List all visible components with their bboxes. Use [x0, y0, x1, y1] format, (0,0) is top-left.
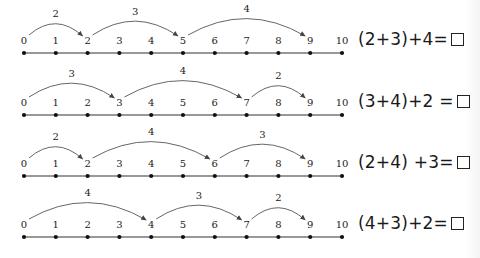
tick-dot — [149, 235, 153, 239]
tick-dot — [245, 174, 249, 178]
answer-box[interactable] — [451, 33, 464, 46]
jump-arc-arrow — [188, 19, 305, 36]
tick-label: 2 — [84, 97, 90, 108]
number-line: 012345678910234 — [21, 3, 349, 55]
tick-label: 4 — [148, 35, 154, 46]
tick-dot — [308, 51, 312, 55]
tick-label: 7 — [243, 219, 249, 230]
tick-dot — [181, 51, 185, 55]
tick-label: 9 — [307, 35, 313, 46]
tick-dot — [276, 174, 280, 178]
tick-label: 9 — [307, 158, 313, 169]
tick-dot — [86, 174, 90, 178]
tick-dot — [22, 235, 26, 239]
tick-label: 2 — [84, 158, 90, 169]
jump-arc-arrow — [29, 83, 114, 98]
tick-label: 4 — [148, 158, 154, 169]
jump-label: 3 — [69, 68, 75, 79]
tick-label: 0 — [21, 97, 27, 108]
equation: (4+3)+2= — [358, 213, 464, 233]
tick-label: 5 — [180, 97, 186, 108]
tick-label: 2 — [84, 35, 90, 46]
tick-dot — [276, 51, 280, 55]
jump-label: 2 — [275, 192, 281, 203]
equation-text: (2+3)+4= — [358, 29, 448, 49]
jump-label: 2 — [275, 70, 281, 81]
tick-dot — [213, 51, 217, 55]
tick-dot — [117, 174, 121, 178]
tick-label: 8 — [275, 35, 281, 46]
answer-box[interactable] — [457, 95, 470, 108]
jump-label: 3 — [196, 190, 202, 201]
answer-box[interactable] — [457, 156, 470, 169]
jump-label: 4 — [243, 3, 249, 14]
jump-arc-arrow — [124, 81, 241, 98]
tick-dot — [245, 51, 249, 55]
tick-dot — [117, 51, 121, 55]
tick-label: 1 — [53, 219, 59, 230]
tick-label: 0 — [21, 35, 27, 46]
equation-text: (3+4)+2 = — [358, 91, 454, 111]
number-line: 012345678910432 — [21, 187, 349, 239]
tick-label: 3 — [116, 158, 122, 169]
tick-label: 0 — [21, 219, 27, 230]
equation-text: (4+3)+2= — [358, 213, 448, 233]
answer-box[interactable] — [451, 217, 464, 230]
tick-dot — [181, 174, 185, 178]
tick-dot — [86, 235, 90, 239]
jump-arc-arrow — [93, 21, 178, 36]
number-line: 012345678910243 — [21, 126, 349, 178]
tick-dot — [22, 113, 26, 117]
tick-dot — [54, 235, 58, 239]
jump-label: 4 — [148, 126, 154, 137]
jump-label: 2 — [53, 131, 59, 142]
tick-label: 2 — [84, 219, 90, 230]
jump-label: 3 — [259, 129, 265, 140]
tick-label: 5 — [180, 35, 186, 46]
tick-label: 10 — [336, 158, 349, 169]
tick-dot — [181, 113, 185, 117]
tick-dot — [54, 113, 58, 117]
tick-dot — [276, 113, 280, 117]
tick-dot — [340, 235, 344, 239]
tick-label: 7 — [243, 35, 249, 46]
tick-label: 10 — [336, 219, 349, 230]
tick-dot — [149, 113, 153, 117]
tick-dot — [54, 51, 58, 55]
tick-dot — [276, 235, 280, 239]
jump-arc-arrow — [220, 144, 305, 159]
tick-dot — [54, 174, 58, 178]
tick-label: 1 — [53, 35, 59, 46]
tick-dot — [213, 235, 217, 239]
jump-label: 2 — [53, 8, 59, 19]
jump-arc-arrow — [156, 205, 241, 220]
tick-label: 4 — [148, 97, 154, 108]
tick-dot — [213, 113, 217, 117]
tick-dot — [149, 51, 153, 55]
tick-dot — [308, 174, 312, 178]
tick-label: 6 — [212, 35, 218, 46]
tick-label: 6 — [212, 219, 218, 230]
tick-dot — [149, 174, 153, 178]
jump-label: 4 — [180, 65, 186, 76]
tick-label: 1 — [53, 158, 59, 169]
jump-arc-arrow — [29, 203, 146, 220]
tick-label: 7 — [243, 97, 249, 108]
tick-label: 9 — [307, 219, 313, 230]
tick-label: 10 — [336, 97, 349, 108]
equation: (2+3)+4= — [358, 29, 464, 49]
jump-arc-arrow — [93, 142, 210, 159]
tick-dot — [117, 113, 121, 117]
tick-label: 5 — [180, 219, 186, 230]
tick-dot — [340, 113, 344, 117]
tick-label: 7 — [243, 158, 249, 169]
tick-label: 3 — [116, 35, 122, 46]
tick-label: 9 — [307, 97, 313, 108]
tick-label: 6 — [212, 97, 218, 108]
tick-label: 8 — [275, 97, 281, 108]
tick-dot — [86, 113, 90, 117]
tick-dot — [308, 113, 312, 117]
tick-label: 3 — [116, 219, 122, 230]
tick-dot — [213, 174, 217, 178]
tick-label: 4 — [148, 219, 154, 230]
